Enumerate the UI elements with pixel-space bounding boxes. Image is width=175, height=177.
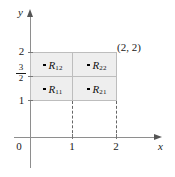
x-tick-label-1: 1 [66,140,78,152]
region-cell-label-R22: R22 [87,58,107,71]
y-tick-1 [28,100,33,101]
fraction-numerator: 3 [15,63,27,72]
sample-point-dot-icon [43,64,46,67]
x-tick-label-2: 2 [110,140,122,152]
y-tick-label-1: 1 [16,94,27,106]
dashed-drop-line-x2 [116,101,117,138]
y-axis-arrow-icon [27,9,33,17]
y-tick-label-2: 2 [16,45,27,57]
sample-point-dot-icon [43,88,46,91]
x-tick-1 [72,134,73,139]
corner-point-annotation: (2, 2) [117,41,141,53]
region-right-edge [116,52,117,101]
x-tick-2 [116,134,117,139]
region-subscript: 11 [55,88,62,96]
sample-point-dot-icon [87,88,90,91]
region-subscript: 12 [55,64,62,72]
fraction-denominator: 2 [15,74,27,83]
region-bottom-edge [30,100,117,101]
sample-point-dot-icon [87,64,90,67]
y-tick-2 [28,52,33,53]
region-subscript: 21 [99,88,106,96]
dashed-drop-line-x1 [72,101,73,138]
region-vertical-divider [72,52,73,101]
region-subscript: 22 [99,64,106,72]
y-tick-label-three-halves: 3 2 [15,63,27,83]
origin-label: 0 [13,140,25,152]
x-axis-arrow-icon [154,134,162,140]
region-horizontal-divider [30,76,117,77]
region-top-edge [30,52,117,53]
region-cell-label-R12: R12 [43,58,63,71]
y-tick-three-halves [28,76,33,77]
region-cell-label-R21: R21 [87,82,107,95]
y-axis-label: y [18,6,23,18]
region-cell-label-R11: R11 [43,82,62,95]
x-axis-label: x [158,140,163,152]
x-axis-line [14,137,156,138]
coordinate-grid-figure: y x 0 1 2 1 2 3 2 R12 R22 R11 R21 (2, 2) [0,0,175,177]
